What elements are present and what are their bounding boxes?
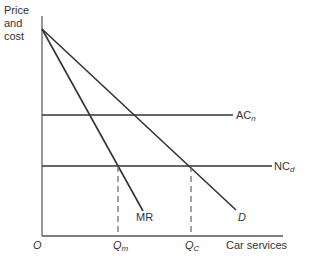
qm-label: Qm [113,239,129,253]
monopoly-diagram: Price and cost ACn NCd MR D O Qm QC Car … [0,0,310,260]
mr-label: MR [136,211,153,223]
y-axis-label-line2: and [4,17,22,29]
ac-label: ACn [236,109,256,123]
demand-label: D [238,211,246,223]
nc-label: NCd [274,160,295,174]
y-axis-label-line1: Price [4,4,29,16]
origin-label: O [33,239,42,251]
qc-label: QC [185,239,200,253]
demand-curve [42,29,236,210]
mr-curve [42,29,143,211]
x-axis-label: Car services [226,239,288,251]
y-axis-label-line3: cost [4,30,24,42]
